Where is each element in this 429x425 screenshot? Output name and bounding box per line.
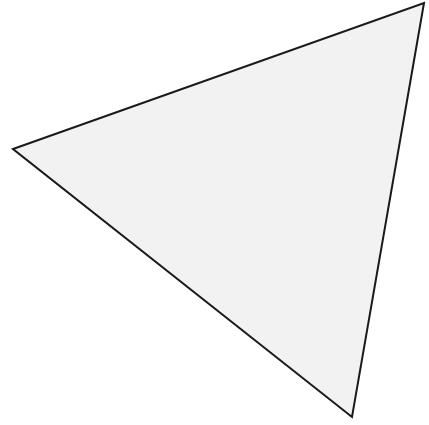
diagram-canvas [0, 0, 429, 425]
triangle-shape [13, 3, 424, 417]
